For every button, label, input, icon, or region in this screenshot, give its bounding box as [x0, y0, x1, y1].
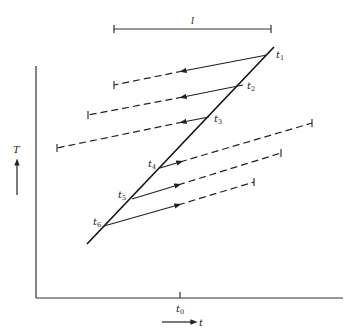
- ray-t2: [88, 85, 243, 119]
- interval-bar: [114, 25, 271, 33]
- label-t1: t1: [276, 49, 284, 62]
- diagram-canvas: l T t t0 t1 t2: [0, 0, 349, 335]
- x-axis-label: t: [199, 317, 204, 328]
- label-t4: t4: [148, 158, 156, 171]
- t0-label: t0: [176, 303, 184, 316]
- main-diagonal-line: [87, 47, 274, 244]
- ray-t3: [57, 117, 209, 152]
- label-t2: t2: [247, 80, 255, 93]
- label-t5: t5: [118, 189, 126, 202]
- ray-t1: [114, 55, 267, 89]
- label-t3: t3: [214, 113, 222, 126]
- y-axis-label: T: [13, 144, 21, 155]
- interval-label: l: [191, 15, 194, 26]
- label-t6: t6: [93, 216, 101, 229]
